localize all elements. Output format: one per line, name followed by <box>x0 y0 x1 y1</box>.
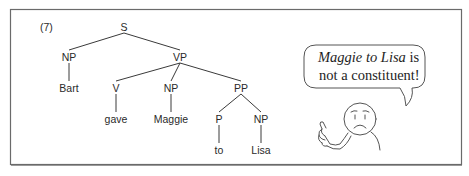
character-arm-inner <box>327 136 351 149</box>
tree-edge-s-np1 <box>69 33 124 50</box>
tree-node-np3: NP <box>254 113 269 125</box>
tree-node-v: V <box>112 82 119 94</box>
tree-nodes: SNPVPBartVNPPPgaveMaggiePNPtoLisa <box>59 21 270 156</box>
figure-panel: (7) SNPVPBartVNPPPgaveMaggiePNPtoLisa Ma… <box>0 0 469 176</box>
example-number: (7) <box>40 21 53 33</box>
character-body <box>371 132 380 150</box>
speech-bubble: Maggie to Lisa is not a constituent! <box>304 45 425 106</box>
tree-edge-vp-v <box>116 63 180 81</box>
pointing-hand-icon <box>318 122 327 146</box>
tree-node-pp: PP <box>234 82 248 94</box>
sad-character <box>318 103 380 150</box>
tree-node-bart: Bart <box>59 82 78 94</box>
speech-line-2: not a constituent! <box>319 67 420 83</box>
speech-line-1: Maggie to Lisa is <box>317 49 419 65</box>
tree-node-lisa: Lisa <box>251 144 270 156</box>
tree-edge-pp-np3 <box>241 94 261 112</box>
tree-edge-s-vp <box>124 33 180 50</box>
tree-node-to: to <box>215 144 224 156</box>
tree-node-gave: gave <box>105 113 128 125</box>
tree-edge-vp-np2 <box>171 63 180 81</box>
speech-italic-phrase: Maggie to Lisa <box>317 49 406 65</box>
speech-line-1-rest: is <box>406 49 420 65</box>
tree-node-p: P <box>215 113 222 125</box>
tree-node-np1: NP <box>62 51 77 63</box>
tree-edge-vp-pp <box>180 63 241 81</box>
character-head <box>344 103 376 135</box>
tree-node-s: S <box>120 21 127 33</box>
character-arm <box>325 133 348 145</box>
tree-node-np2: NP <box>164 82 179 94</box>
tree-node-vp: VP <box>173 51 187 63</box>
tree-node-maggie: Maggie <box>154 113 189 125</box>
tree-edge-pp-p <box>219 94 241 112</box>
diagram-canvas: (7) SNPVPBartVNPPPgaveMaggiePNPtoLisa Ma… <box>0 0 469 176</box>
